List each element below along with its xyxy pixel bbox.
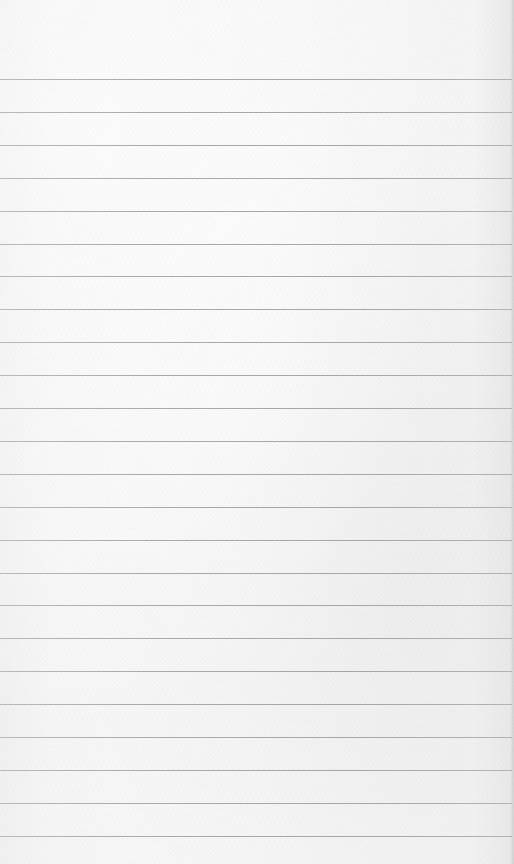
ruled-line (0, 276, 512, 277)
ruled-line (0, 671, 512, 672)
ruled-line (0, 309, 512, 310)
ruled-line (0, 638, 512, 639)
ruled-line (0, 79, 512, 80)
ruled-line (0, 375, 512, 376)
ruled-line (0, 507, 512, 508)
ruled-line (0, 737, 512, 738)
ruled-line (0, 145, 512, 146)
paper-texture (0, 0, 514, 864)
ruled-line (0, 803, 512, 804)
ruled-line (0, 704, 512, 705)
lined-paper-page (0, 0, 514, 864)
ruled-line (0, 408, 512, 409)
ruled-line (0, 112, 512, 113)
ruled-line (0, 474, 512, 475)
ruled-line (0, 605, 512, 606)
ruled-line (0, 573, 512, 574)
ruled-line (0, 244, 512, 245)
ruled-line (0, 342, 512, 343)
ruled-line (0, 211, 512, 212)
ruled-line (0, 178, 512, 179)
page-edge-shadow (510, 0, 514, 864)
ruled-line (0, 770, 512, 771)
ruled-line (0, 540, 512, 541)
ruled-line (0, 441, 512, 442)
ruled-line (0, 836, 512, 837)
